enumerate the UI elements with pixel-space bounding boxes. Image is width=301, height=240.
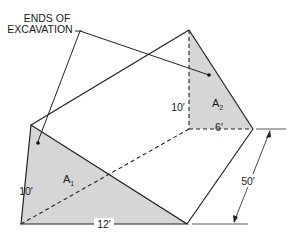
callout-dot-a1 — [36, 141, 40, 145]
front-height-label: 10′ — [19, 185, 33, 197]
back-width-label: 6′ — [215, 121, 223, 133]
top-edge — [31, 30, 189, 125]
excavation-diagram: ENDS OF EXCAVATION 10′ A2 6′ 10′ A1 12′ … — [0, 0, 301, 240]
callout-leader-a1 — [37, 31, 80, 144]
callout-dot-a2 — [207, 73, 211, 77]
front-end-face-a1 — [21, 125, 187, 224]
length-label: 50′ — [241, 175, 255, 187]
callout-label-line2: EXCAVATION — [7, 23, 72, 35]
back-height-label: 10′ — [171, 101, 185, 113]
front-width-label: 12′ — [97, 218, 111, 230]
